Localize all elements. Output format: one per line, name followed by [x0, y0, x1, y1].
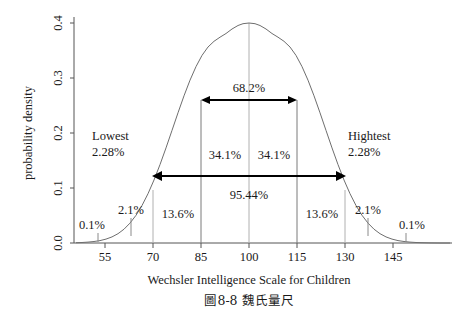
tail-label-lowest-title: Lowest — [92, 129, 129, 143]
span-arrow-68-right-head — [288, 96, 297, 104]
span-arrow-95-label: 95.44% — [230, 188, 269, 202]
y-tick-label-3: 0.3 — [51, 70, 65, 86]
x-axis-label: Wechsler Intelligence Scale for Children — [147, 273, 351, 287]
normal-distribution-chart: probability density 0.0 0.1 0.2 0.3 0.4 … — [0, 0, 460, 315]
x-tick-label-85: 85 — [195, 250, 208, 264]
band-label-left-21: 2.1% — [118, 203, 144, 217]
x-tick-label-100: 100 — [240, 250, 259, 264]
y-tick-label-4: 0.4 — [51, 14, 65, 30]
y-tick-label-0: 0.0 — [51, 235, 65, 251]
band-label-left-01: 0.1% — [79, 218, 105, 232]
y-axis-label: probability density — [21, 85, 35, 180]
band-label-right-34: 34.1% — [258, 148, 290, 162]
y-tick-label-1: 0.1 — [51, 180, 65, 196]
band-label-right-01: 0.1% — [399, 218, 425, 232]
tail-label-highest-title: Hightest — [348, 129, 391, 143]
band-label-right-136: 13.6% — [306, 207, 338, 221]
span-arrow-68-left-head — [201, 96, 210, 104]
x-tick-label-70: 70 — [147, 250, 160, 264]
band-label-left-136: 13.6% — [162, 207, 194, 221]
x-tick-label-115: 115 — [288, 250, 306, 264]
x-tick-label-130: 130 — [336, 250, 355, 264]
band-label-left-34: 34.1% — [209, 148, 241, 162]
tail-label-highest-value: 2.28% — [348, 145, 380, 159]
y-tick-label-2: 0.2 — [51, 125, 65, 141]
span-arrow-68-label: 68.2% — [233, 81, 265, 95]
x-tick-label-145: 145 — [384, 250, 403, 264]
tail-label-lowest-value: 2.28% — [92, 145, 124, 159]
x-tick-label-55: 55 — [99, 250, 112, 264]
band-label-right-21: 2.1% — [355, 203, 381, 217]
figure-caption: 圖8-8 魏氏量尺 — [204, 293, 293, 308]
